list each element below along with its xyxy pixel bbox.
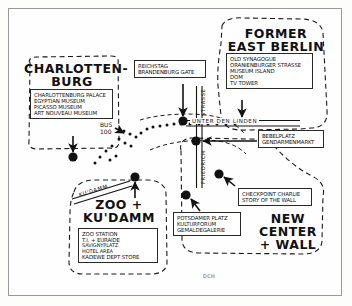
street-label-unter-den-linden: UNTER DEN LINDEN <box>190 118 259 124</box>
zone-title-zoo-kudamm: ZOO + KU'DAMM <box>76 198 162 224</box>
zone-title-new-center-wall: NEW CENTER + WALL <box>248 212 328 251</box>
callout-box-potsdamer-platz: POTSDAMER PLATZ KULTURFORUM GEMALDEGALER… <box>173 212 241 236</box>
map-credit: DCH <box>203 273 215 279</box>
berlin-map: CHARLOTTEN- BURG FORMER EAST BERLIN ZOO … <box>0 0 352 306</box>
map-dot-unter-den-linden <box>178 116 187 125</box>
list-box-charlottenburg: CHARLOTTENBURG PALACE EGYPTIAN MUSEUM PI… <box>30 89 113 119</box>
callout-box-bebelplatz: BEBELPLATZ GENDARMENMARKT <box>258 130 324 148</box>
map-dot-checkpoint-charlie <box>214 169 223 178</box>
list-item: KADEWE DEPT STORE <box>82 254 154 260</box>
street-label-friedrichstrasse-north: STRASSE <box>200 89 206 116</box>
list-item: TV TOWER <box>230 80 309 86</box>
zone-title-charlottenburg: CHARLOTTEN- BURG <box>24 62 120 88</box>
street-label-friedrichstrasse-south: FRIEDRICH <box>200 151 206 184</box>
callout-box-checkpoint-charlie: CHECKPOINT CHARLIE STORY OF THE WALL <box>238 188 312 206</box>
callout-box-reichstag: REICHSTAG BRANDENBURG GATE <box>134 60 206 78</box>
list-box-former-east-berlin: OLD SYNAGOGUE ORANIENBURGER STRASSE MUSE… <box>226 53 313 89</box>
zone-title-former-east-berlin: FORMER EAST BERLIN <box>224 27 328 53</box>
arrow-potsdamer-to-dot <box>191 199 200 211</box>
map-dot-charlottenburg <box>68 152 77 161</box>
list-item: STORY OF THE WALL <box>242 197 308 203</box>
list-item: GEMALDEGALERIE <box>177 227 237 233</box>
list-box-zoo-kudamm: ZOO STATION T.I. + EURAIDE SAVIGNYPLATZ … <box>78 228 158 263</box>
list-item: GENDARMENMARKT <box>262 139 320 145</box>
map-dot-zoo-station <box>130 172 139 181</box>
map-dot-potsdamer-platz <box>181 190 190 199</box>
map-dot-bebelplatz <box>191 136 200 145</box>
note-bus-100: BUS 100 <box>100 122 112 135</box>
list-item: BRANDENBURG GATE <box>138 69 202 75</box>
arrow-checkpoint-to-dot <box>224 177 235 186</box>
list-item: ART NOUVEAU MUSEUM <box>34 110 109 116</box>
